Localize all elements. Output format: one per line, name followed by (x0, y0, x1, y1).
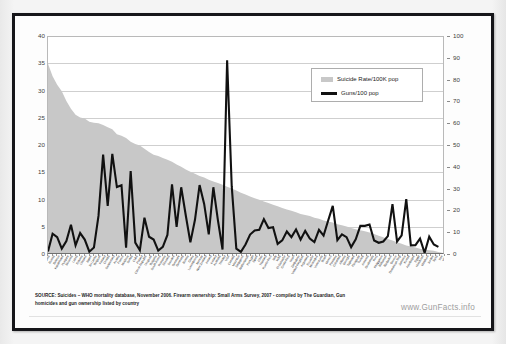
y-axis-right-tick (447, 80, 450, 81)
y-axis-right: 0102030405060708090100 (447, 36, 473, 254)
legend: Suicide Rate/100K pop Guns/100 pop (311, 68, 423, 102)
y-axis-left-tick-label: 25 (25, 115, 45, 121)
y-axis-left-tick-label: 5 (25, 224, 45, 230)
y-axis-right-tick (447, 145, 450, 146)
chart-frame: International Suicide Rates and Firearm … (12, 13, 494, 331)
x-axis-tick-label: Haiti (442, 255, 444, 262)
y-axis-right-tick-label: 50 (453, 142, 475, 148)
y-axis-left-tick-label: 0 (25, 251, 45, 257)
screenshot-root: International Suicide Rates and Firearm … (0, 0, 506, 344)
legend-item-suicide-rate: Suicide Rate/100K pop (321, 74, 398, 84)
legend-label: Guns/100 pop (341, 90, 379, 96)
y-axis-left-tick-label: 40 (25, 33, 45, 39)
y-axis-right-tick-label: 100 (453, 33, 475, 39)
y-axis-right-tick (447, 210, 450, 211)
legend-label: Suicide Rate/100K pop (337, 76, 398, 82)
y-axis-right-tick (447, 167, 450, 168)
y-axis-right-tick-label: 0 (453, 251, 475, 257)
y-axis-right-tick (447, 232, 450, 233)
watermark: www.GunFacts.info (401, 303, 475, 312)
y-axis-left-tick-label: 35 (25, 60, 45, 66)
x-axis-tick (444, 254, 445, 256)
source-note: SOURCE: Suicides – WHO mortality databas… (35, 292, 355, 308)
y-axis-right-tick-label: 40 (453, 164, 475, 170)
y-axis-right-tick (447, 189, 450, 190)
area-swatch-icon (321, 77, 333, 82)
y-axis-right-tick-label: 90 (453, 55, 475, 61)
y-axis-right-tick-label: 80 (453, 77, 475, 83)
y-axis-right-tick-label: 20 (453, 207, 475, 213)
y-axis-right-tick (447, 254, 450, 255)
y-axis-left-tick-label: 30 (25, 88, 45, 94)
y-axis-right-tick (447, 36, 450, 37)
y-axis-left-tick-label: 20 (25, 142, 45, 148)
y-axis-right-tick-label: 30 (453, 186, 475, 192)
y-axis-left-tick-label: 10 (25, 197, 45, 203)
footer-divider (29, 316, 481, 317)
y-axis-left: 0510152025303540 (21, 36, 45, 254)
legend-item-guns: Guns/100 pop (321, 88, 379, 98)
y-axis-right-tick-label: 60 (453, 120, 475, 126)
line-swatch-icon (321, 92, 337, 95)
chart-card: International Suicide Rates and Firearm … (15, 16, 491, 328)
y-axis-right-tick (447, 101, 450, 102)
y-axis-right-tick-label: 10 (453, 229, 475, 235)
y-axis-right-tick (447, 58, 450, 59)
y-axis-right-tick-label: 70 (453, 98, 475, 104)
y-axis-right-tick (447, 123, 450, 124)
y-axis-left-tick-label: 15 (25, 169, 45, 175)
